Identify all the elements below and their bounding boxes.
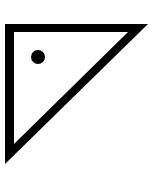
right-triangle-dot-icon [0, 0, 152, 178]
triangle-dot-icon-container [0, 0, 152, 178]
dot-icon [31, 50, 45, 64]
